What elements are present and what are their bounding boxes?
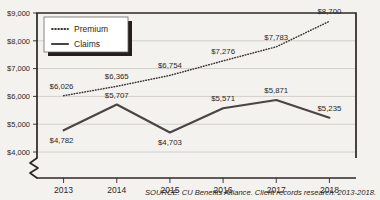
data-label: $6,026: [50, 82, 74, 91]
line-chart: $4,000$5,000$6,000$7,000$8,000$9,000 201…: [0, 0, 380, 200]
y-axis-tick-labels: $4,000$5,000$6,000$7,000$8,000$9,000: [7, 9, 30, 157]
data-label: $5,571: [211, 94, 235, 103]
y-tick-label: $7,000: [7, 64, 30, 73]
series-line-claims: [64, 100, 330, 133]
gridlines: [37, 41, 356, 152]
data-label: $4,703: [158, 138, 182, 147]
source-caption-text: SOURCE: CU Benefits Alliance. Client rec…: [145, 188, 376, 197]
y-tick-label: $5,000: [7, 120, 30, 129]
data-label: $4,782: [50, 136, 74, 145]
data-label: $6,754: [158, 61, 183, 70]
y-tick-label: $8,000: [7, 37, 30, 46]
source-caption: SOURCE: CU Benefits Alliance. Client rec…: [145, 188, 376, 197]
x-tick-label: 2014: [107, 185, 126, 195]
data-label: $7,783: [264, 33, 288, 42]
data-label: $8,700: [317, 7, 342, 16]
y-tick-label: $9,000: [7, 9, 30, 18]
chart-legend: PremiumClaims: [44, 17, 132, 56]
y-axis-break-icon: [30, 158, 38, 178]
data-label: $5,235: [317, 104, 342, 113]
data-label: $5,871: [264, 86, 288, 95]
chart-container: $4,000$5,000$6,000$7,000$8,000$9,000 201…: [0, 0, 380, 200]
legend-label-premium: Premium: [74, 24, 108, 34]
data-label: $6,365: [105, 72, 130, 81]
data-label: $5,707: [105, 91, 129, 100]
x-tick-label: 2013: [54, 185, 73, 195]
y-tick-label: $4,000: [7, 148, 30, 157]
legend-label-claims: Claims: [74, 39, 100, 49]
y-tick-label: $6,000: [7, 92, 30, 101]
data-label: $7,276: [211, 47, 235, 56]
